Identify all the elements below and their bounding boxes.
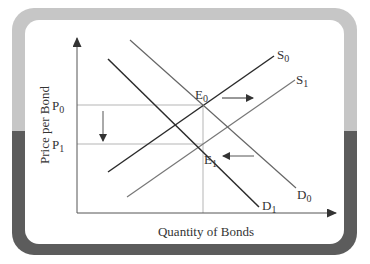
p1-label: P1 [52,137,64,154]
s1-label: S1 [296,72,308,89]
s0-label: S0 [277,47,289,64]
supply-curve-s0 [108,56,274,172]
d0-label: D0 [297,187,311,204]
demand-curve-d1 [108,59,259,207]
y-axis-title: Price per Bond [37,86,52,164]
e0-label: E0 [195,87,208,104]
x-axis-title: Quantity of Bonds [158,224,254,239]
guide-lines [77,105,203,213]
p0-label: P0 [52,98,64,115]
bond-market-diagram: P0 P1 S0 S1 D0 D1 E0 E1 Quantity of Bond… [0,0,370,264]
d1-label: D1 [262,198,276,215]
e1-label: E1 [204,152,217,169]
supply-curve-s1 [127,80,295,197]
